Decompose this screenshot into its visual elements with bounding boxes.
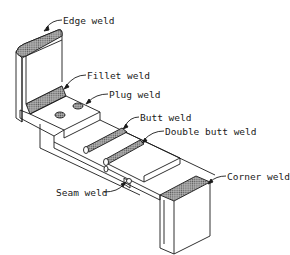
label-corner-weld: Corner weld — [227, 172, 290, 182]
double-butt-weld-leader — [144, 131, 164, 140]
plug-hole-1 — [55, 112, 65, 118]
seam-weld-dot — [127, 179, 132, 184]
label-plug-weld: Plug weld — [109, 90, 160, 100]
corner-block — [160, 176, 210, 254]
plug-weld-leader — [88, 94, 108, 102]
label-double-butt-weld: Double butt weld — [165, 127, 257, 137]
upper-base-plate — [20, 96, 140, 195]
label-butt-weld: Butt weld — [140, 113, 191, 123]
butt-weld-leader — [125, 117, 139, 126]
label-seam-weld: Seam weld — [56, 188, 107, 198]
plug-hole-2 — [73, 103, 83, 109]
label-edge-weld: Edge weld — [63, 16, 114, 26]
label-fillet-weld: Fillet weld — [87, 71, 150, 81]
fillet-weld-leader — [66, 75, 86, 86]
butt-weld-bead — [84, 128, 127, 152]
double-butt-weld-bead — [104, 140, 144, 164]
weld-types-diagram: Edge weld Fillet weld Plug weld Butt wel… — [0, 0, 290, 255]
fillet-weld-bead — [26, 86, 66, 114]
